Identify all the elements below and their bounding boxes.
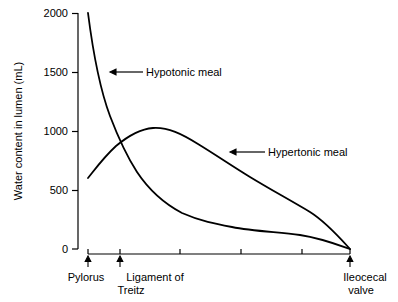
y-axis-title: Water content in lumen (mL) — [12, 62, 24, 200]
chart-figure: 2000 1500 1000 500 0 Water content in lu… — [0, 0, 398, 302]
series-label-hypotonic-meal: Hypotonic meal — [146, 66, 222, 78]
hypertonic-annotation-arrow — [230, 149, 265, 155]
x-landmark-label-ileocecal-valve-line1: Ileocecal — [343, 271, 386, 283]
landmark-marker-ileocecal-valve — [347, 256, 353, 267]
x-landmark-label-ligament-of-treitz-line2: Treitz — [117, 284, 144, 296]
chart-canvas: 2000 1500 1000 500 0 Water content in lu… — [0, 0, 398, 302]
y-tick-label-0: 0 — [62, 243, 68, 255]
y-tick-label-500: 500 — [50, 184, 68, 196]
y-tick-label-2000: 2000 — [44, 7, 68, 19]
y-tick-label-1000: 1000 — [44, 125, 68, 137]
curve-hypotonic-meal — [88, 13, 350, 249]
hypotonic-annotation-arrow — [110, 69, 143, 75]
landmark-marker-pylorus — [85, 256, 91, 267]
landmark-marker-ligament-of-treitz — [117, 256, 123, 267]
y-tick-label-1500: 1500 — [44, 66, 68, 78]
x-landmark-label-ileocecal-valve-line2: valve — [348, 284, 374, 296]
x-landmark-label-pylorus: Pylorus — [68, 271, 105, 283]
series-label-hypertonic-meal: Hypertonic meal — [268, 146, 347, 158]
x-landmark-label-ligament-of-treitz-line1: Ligament of — [126, 271, 184, 283]
